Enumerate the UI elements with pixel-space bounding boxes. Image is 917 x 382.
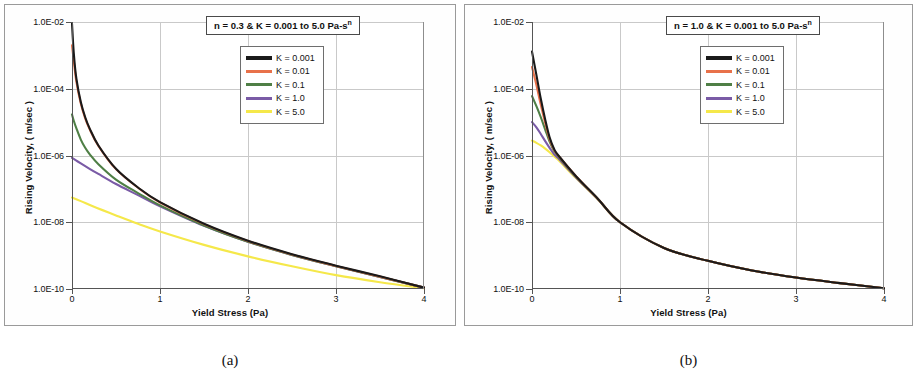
y-tick-label: 1.0E-08 — [493, 217, 524, 227]
series-line — [532, 141, 884, 289]
y-tick-label: 1.0E-06 — [493, 151, 524, 161]
panel-b-annotation-exponent: n — [808, 19, 812, 26]
legend-color-swatch — [246, 83, 272, 86]
legend-item[interactable]: K = 0.01 — [706, 65, 775, 79]
legend-item[interactable]: K = 0.01 — [246, 65, 315, 79]
legend-item[interactable]: K = 0.001 — [246, 51, 315, 65]
y-tick-mark — [526, 156, 532, 157]
y-tick-mark — [66, 89, 72, 90]
x-tick-label: 4 — [881, 294, 886, 304]
y-tick-mark — [66, 22, 72, 23]
panel-a-legend: K = 0.001K = 0.01K = 0.1K = 1.0K = 5.0 — [240, 46, 324, 124]
panel-b-plot-area: 1.0E-021.0E-041.0E-061.0E-081.0E-1001234… — [532, 22, 884, 289]
y-tick-label: 1.0E-02 — [493, 17, 524, 27]
legend-item[interactable]: K = 0.001 — [706, 51, 775, 65]
panel-b-annotation-text: n = 1.0 & K = 0.001 to 5.0 Pa-s — [674, 20, 808, 31]
legend-label: K = 0.01 — [276, 66, 310, 76]
panel-b-right-spine — [883, 22, 884, 289]
legend-label: K = 1.0 — [276, 93, 305, 103]
y-tick-label: 1.0E-10 — [33, 284, 64, 294]
legend-label: K = 0.1 — [736, 80, 765, 90]
series-line — [532, 122, 884, 288]
y-tick-label: 1.0E-08 — [33, 217, 64, 227]
x-tick-label: 4 — [421, 294, 426, 304]
panels-container: Rising Velocity, ( m/sec ) 1.0E-021.0E-0… — [0, 0, 917, 330]
y-tick-mark — [526, 222, 532, 223]
panel-a-annotation-text: n = 0.3 & K = 0.001 to 5.0 Pa-s — [214, 20, 348, 31]
figure-root: Rising Velocity, ( m/sec ) 1.0E-021.0E-0… — [0, 0, 917, 382]
panel-b-x-axis-title: Yield Stress (Pa) — [460, 307, 917, 318]
panel-b: Rising Velocity, ( m/sec ) 1.0E-021.0E-0… — [460, 0, 917, 330]
series-line — [532, 96, 884, 288]
legend-item[interactable]: K = 5.0 — [706, 105, 775, 119]
caption-a: (a) — [0, 330, 460, 382]
legend-label: K = 0.01 — [736, 66, 770, 76]
legend-color-swatch — [246, 97, 272, 100]
legend-color-swatch — [706, 97, 732, 100]
legend-label: K = 5.0 — [276, 107, 305, 117]
legend-label: K = 0.1 — [276, 80, 305, 90]
legend-label: K = 1.0 — [736, 93, 765, 103]
legend-color-swatch — [246, 70, 272, 73]
x-tick-label: 2 — [245, 294, 250, 304]
panel-a-y-axis-title: Rising Velocity, ( m/sec ) — [23, 68, 34, 248]
y-tick-mark — [526, 22, 532, 23]
panel-b-y-axis-line — [532, 22, 533, 289]
y-tick-label: 1.0E-06 — [33, 151, 64, 161]
panel-b-annotation: n = 1.0 & K = 0.001 to 5.0 Pa-sn — [666, 16, 820, 35]
legend-color-swatch — [706, 56, 732, 60]
legend-item[interactable]: K = 5.0 — [246, 105, 315, 119]
x-tick-label: 2 — [705, 294, 710, 304]
legend-color-swatch — [246, 56, 272, 60]
legend-color-swatch — [706, 83, 732, 86]
y-tick-mark — [526, 89, 532, 90]
panel-a-annotation: n = 0.3 & K = 0.001 to 5.0 Pa-sn — [206, 16, 360, 35]
legend-label: K = 5.0 — [736, 107, 765, 117]
legend-item[interactable]: K = 0.1 — [706, 78, 775, 92]
legend-color-swatch — [246, 110, 272, 113]
panel-a-y-axis-line — [72, 22, 73, 289]
legend-label: K = 0.001 — [276, 53, 315, 63]
series-line — [72, 114, 424, 287]
legend-color-swatch — [706, 110, 732, 113]
legend-item[interactable]: K = 1.0 — [246, 92, 315, 106]
x-tick-label: 0 — [69, 294, 74, 304]
x-tick-label: 3 — [793, 294, 798, 304]
y-tick-label: 1.0E-10 — [493, 284, 524, 294]
panel-b-legend: K = 0.001K = 0.01K = 0.1K = 1.0K = 5.0 — [700, 46, 784, 124]
captions-row: (a) (b) — [0, 330, 917, 382]
panel-a-plot-area: 1.0E-021.0E-041.0E-061.0E-081.0E-1001234… — [72, 22, 424, 289]
panel-a-right-spine — [423, 22, 424, 289]
y-tick-mark — [66, 222, 72, 223]
y-tick-label: 1.0E-02 — [33, 17, 64, 27]
x-tick-label: 1 — [157, 294, 162, 304]
x-tick-label: 3 — [333, 294, 338, 304]
caption-b: (b) — [460, 330, 917, 382]
panel-a-annotation-exponent: n — [348, 19, 352, 26]
panel-b-y-axis-title: Rising Velocity, ( m/sec ) — [483, 68, 494, 248]
x-tick-label: 0 — [529, 294, 534, 304]
panel-a: Rising Velocity, ( m/sec ) 1.0E-021.0E-0… — [0, 0, 460, 330]
legend-item[interactable]: K = 1.0 — [706, 92, 775, 106]
panel-a-x-axis-title: Yield Stress (Pa) — [0, 307, 460, 318]
y-tick-label: 1.0E-04 — [493, 84, 524, 94]
y-tick-mark — [66, 156, 72, 157]
legend-color-swatch — [706, 70, 732, 73]
y-tick-label: 1.0E-04 — [33, 84, 64, 94]
legend-item[interactable]: K = 0.1 — [246, 78, 315, 92]
x-tick-label: 1 — [617, 294, 622, 304]
legend-label: K = 0.001 — [736, 53, 775, 63]
